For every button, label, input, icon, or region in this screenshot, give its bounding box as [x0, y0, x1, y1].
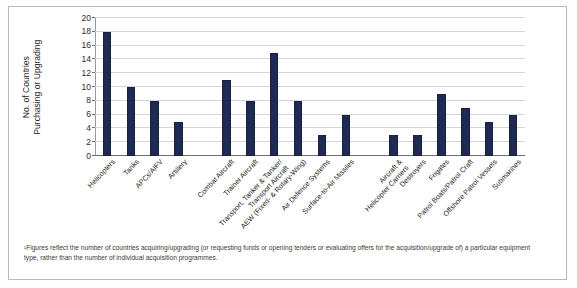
y-axis-title-line-2: Purchasing or Upgrading: [33, 39, 44, 134]
x-axis-label: Artillery: [166, 158, 189, 182]
y-tick-mark: [92, 72, 95, 73]
y-tick-mark: [92, 17, 95, 18]
gridline: [95, 72, 525, 73]
gridline: [95, 155, 525, 156]
figure-container: No. of Countries Purchasing or Upgrading…: [0, 0, 577, 288]
y-axis-title: No. of Countries Purchasing or Upgrading: [22, 18, 44, 156]
x-axis-label-line: Tanks: [122, 158, 141, 178]
gridline: [95, 141, 525, 142]
y-tick-label: 16: [82, 41, 91, 50]
y-tick-label: 8: [86, 97, 91, 106]
gridline: [95, 45, 525, 46]
plot-area: 02468101214161820: [95, 18, 525, 156]
y-tick-label: 18: [82, 28, 91, 37]
y-tick-mark: [92, 100, 95, 101]
y-tick-label: 20: [82, 14, 91, 23]
y-tick-label: 14: [82, 55, 91, 64]
y-tick-label: 0: [86, 152, 91, 161]
y-tick-mark: [92, 155, 95, 156]
gridline: [95, 58, 525, 59]
gridline: [95, 86, 525, 87]
y-tick-mark: [92, 45, 95, 46]
y-tick-mark: [92, 58, 95, 59]
x-axis-label-line: Artillery: [166, 158, 189, 182]
x-axis-label: Tanks: [122, 158, 141, 178]
y-tick-mark: [92, 31, 95, 32]
gridline: [95, 100, 525, 101]
y-tick-mark: [92, 86, 95, 87]
y-tick-mark: [92, 141, 95, 142]
y-tick-label: 10: [82, 83, 91, 92]
y-tick-mark: [92, 127, 95, 128]
x-axis-labels: HelicoptersTanksAPCs/AIFVArtilleryCombat…: [95, 158, 525, 234]
y-tick-label: 12: [82, 69, 91, 78]
x-axis-label-line: Transport Aircraft: [224, 164, 291, 234]
y-tick-label: 2: [86, 138, 91, 147]
footnote: ¹Figures reflect the number of countries…: [24, 243, 534, 263]
gridline: [95, 31, 525, 32]
gridline: [95, 114, 525, 115]
gridline: [95, 127, 525, 128]
y-tick-label: 4: [86, 124, 91, 133]
gridline: [95, 17, 525, 18]
plot-axes: [95, 18, 525, 156]
y-tick-label: 6: [86, 110, 91, 119]
y-axis-title-line-1: No. of Countries: [22, 39, 33, 134]
y-tick-mark: [92, 114, 95, 115]
